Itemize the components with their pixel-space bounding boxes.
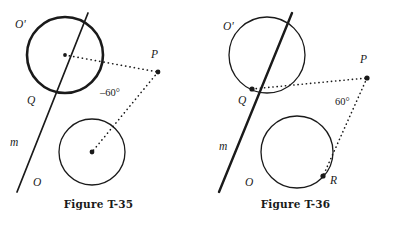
figure-t-36-drawing: O' Q m O P R 60° bbox=[197, 0, 394, 200]
label-lower-circle-o: O bbox=[33, 176, 42, 188]
label-tangency-point-q: Q bbox=[238, 94, 247, 106]
label-upper-circle-o-prime: O' bbox=[15, 18, 26, 30]
dotted-segment-o-prime-to-p bbox=[65, 55, 158, 72]
dotted-segment-q-to-p bbox=[252, 78, 367, 89]
figure-sheet: O' Q m O P –60° Figure T-35 bbox=[0, 0, 394, 226]
label-external-point-p: P bbox=[150, 48, 158, 60]
figure-t-35-drawing: O' Q m O P –60° bbox=[0, 0, 197, 200]
label-lower-circle-o: O bbox=[245, 176, 254, 188]
label-angle-measure: 60° bbox=[335, 96, 350, 107]
label-line-m: m bbox=[219, 140, 227, 152]
point-p-dot bbox=[156, 70, 161, 75]
figure-panel-t-36: O' Q m O P R 60° Figure T-36 bbox=[197, 0, 394, 226]
figure-panel-t-35: O' Q m O P –60° Figure T-35 bbox=[0, 0, 197, 226]
point-r-dot bbox=[320, 173, 325, 178]
dotted-segment-p-to-o bbox=[92, 72, 158, 152]
point-p-dot bbox=[364, 75, 369, 80]
line-m bbox=[219, 13, 292, 192]
figure-caption-t-35: Figure T-35 bbox=[0, 198, 197, 210]
upper-circle-o-prime bbox=[229, 17, 305, 93]
dotted-segment-p-to-r bbox=[323, 78, 367, 176]
label-line-m: m bbox=[10, 136, 18, 148]
point-q-dot bbox=[249, 86, 254, 91]
label-external-point-p: P bbox=[359, 53, 367, 65]
label-tangency-point-q: Q bbox=[27, 94, 36, 106]
label-tangent-point-r: R bbox=[329, 174, 337, 186]
figure-caption-t-36: Figure T-36 bbox=[197, 198, 394, 210]
label-upper-circle-o-prime: O' bbox=[223, 20, 234, 32]
label-angle-measure: –60° bbox=[99, 87, 120, 98]
